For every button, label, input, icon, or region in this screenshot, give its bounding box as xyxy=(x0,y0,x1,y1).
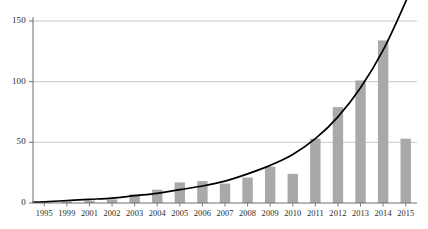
chart-plot-area xyxy=(0,0,428,229)
bar xyxy=(220,184,230,203)
x-axis-tick-label: 2015 xyxy=(390,209,422,218)
y-axis-tick-label: 100 xyxy=(12,76,26,86)
bar xyxy=(401,139,411,203)
x-tick-marks-group xyxy=(44,203,405,207)
y-axis-tick-label: 0 xyxy=(21,197,26,207)
bar xyxy=(242,178,252,203)
bar xyxy=(175,182,185,203)
bar xyxy=(355,80,365,203)
bar xyxy=(378,40,388,203)
bar xyxy=(265,167,275,203)
bar xyxy=(288,174,298,203)
chart-container: 050100150 199519992001200220032004200520… xyxy=(0,0,428,229)
y-axis-tick-label: 50 xyxy=(17,136,26,146)
y-axis-tick-label: 150 xyxy=(12,15,26,25)
bar xyxy=(107,199,117,203)
bars-group xyxy=(39,40,411,203)
bar xyxy=(310,139,320,203)
bar xyxy=(152,190,162,203)
bar xyxy=(197,181,207,203)
